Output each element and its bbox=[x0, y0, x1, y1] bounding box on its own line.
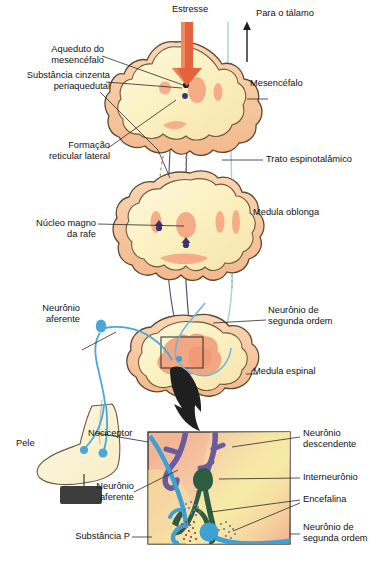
nucleus-raphe-magnus-neuron bbox=[183, 242, 189, 248]
label-medula-oblonga: Medula oblonga bbox=[253, 207, 319, 218]
medulla-oblongata-section bbox=[113, 171, 264, 280]
label-substancia-p: Substância P bbox=[48, 531, 130, 542]
label-formacao-reticular-lateral: Formação reticular lateral bbox=[0, 140, 110, 161]
label-neuronio-aferente-inset: Neurônio aferente bbox=[52, 481, 134, 502]
label-neuronio-segunda-ordem-inset: Neurônio de segunda ordem bbox=[303, 522, 368, 543]
label-medula-espinal: Medula espinal bbox=[253, 366, 316, 377]
nociceptor-ending-1 bbox=[80, 446, 88, 454]
pag-neuron bbox=[182, 93, 188, 99]
label-mesencefalo: Mesencéfalo bbox=[250, 78, 303, 89]
label-substancia-cinzenta-periaquedutal: Substância cinzenta periaquedutal bbox=[0, 70, 110, 91]
label-para-talamo: Para o tálamo bbox=[256, 8, 314, 19]
label-encefalina: Encefalina bbox=[303, 494, 346, 505]
label-pele: Pele bbox=[16, 438, 35, 449]
label-nucleo-magno-da-rafe: Núcleo magno da rafe bbox=[0, 218, 96, 239]
label-nociceptor: Nociceptor bbox=[88, 428, 132, 439]
nociceptor-ending-2 bbox=[99, 449, 108, 458]
dorsal-root-ganglion bbox=[96, 319, 106, 332]
label-estresse: Estresse bbox=[150, 4, 230, 15]
label-neuronio-aferente-top: Neurônio aferente bbox=[6, 303, 80, 324]
label-neuronio-descendente: Neurônio descendente bbox=[303, 428, 356, 449]
dorsal-horn-inset bbox=[148, 430, 290, 544]
label-neuronio-segunda-ordem-top: Neurônio de segunda ordem bbox=[268, 305, 333, 326]
label-trato-espinotalamico: Trato espinotalâmico bbox=[266, 154, 352, 165]
label-aqueduto-do-mesencefalo: Aqueduto do mesencéfalo bbox=[0, 44, 104, 65]
label-interneuronio: Interneurônio bbox=[303, 472, 358, 483]
